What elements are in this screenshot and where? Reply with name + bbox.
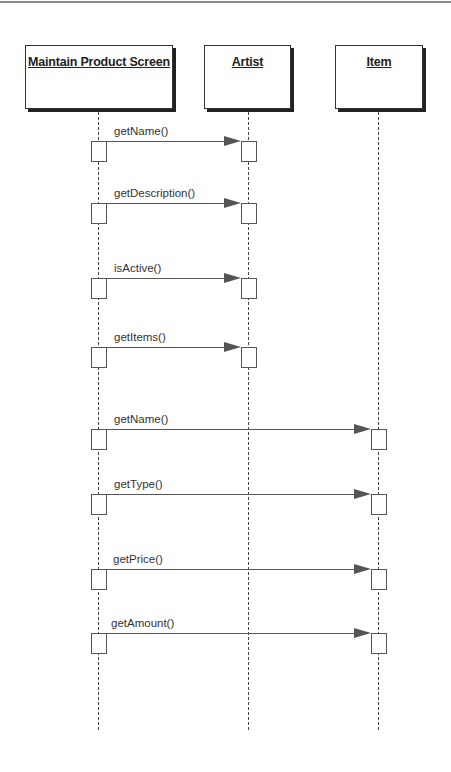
message-arrow-line (107, 347, 225, 348)
arrowhead-icon (224, 342, 241, 352)
message-label: getDescription() (114, 187, 195, 199)
object-maintain-product-screen[interactable]: Maintain Product Screen (25, 45, 173, 109)
activation-source (91, 278, 107, 299)
activation-source (91, 203, 107, 224)
activation-target (371, 429, 387, 450)
message-arrow-line (107, 569, 355, 570)
message-arrow-line (107, 494, 355, 495)
object-artist[interactable]: Artist (204, 45, 291, 109)
arrowhead-icon (354, 489, 371, 499)
activation-source (91, 569, 107, 590)
message-arrow-line (107, 278, 225, 279)
activation-target (241, 278, 257, 299)
arrowhead-icon (354, 564, 371, 574)
object-name: Artist (205, 55, 290, 69)
activation-target (241, 203, 257, 224)
message-arrow-line (107, 429, 355, 430)
activation-source (91, 429, 107, 450)
object-name: Item (336, 55, 422, 69)
message-label: getPrice() (113, 553, 163, 565)
arrowhead-icon (354, 628, 371, 638)
activation-target (371, 633, 387, 654)
arrowhead-icon (354, 424, 371, 434)
arrowhead-icon (224, 273, 241, 283)
message-label: getName() (114, 125, 168, 137)
message-arrow-line (107, 141, 225, 142)
activation-target (241, 141, 257, 162)
message-label: getName() (114, 413, 168, 425)
activation-target (371, 494, 387, 515)
message-label: isActive() (114, 262, 161, 274)
message-arrow-line (107, 203, 225, 204)
top-border-line (0, 1, 451, 3)
message-label: getAmount() (111, 617, 174, 629)
activation-source (91, 141, 107, 162)
message-arrow-line (107, 633, 355, 634)
object-name: Maintain Product Screen (26, 55, 172, 69)
arrowhead-icon (224, 136, 241, 146)
activation-source (91, 347, 107, 368)
object-item[interactable]: Item (335, 45, 423, 109)
message-label: getItems() (114, 331, 166, 343)
activation-target (241, 347, 257, 368)
activation-source (91, 633, 107, 654)
activation-source (91, 494, 107, 515)
message-label: getType() (114, 478, 163, 490)
activation-target (371, 569, 387, 590)
arrowhead-icon (224, 198, 241, 208)
